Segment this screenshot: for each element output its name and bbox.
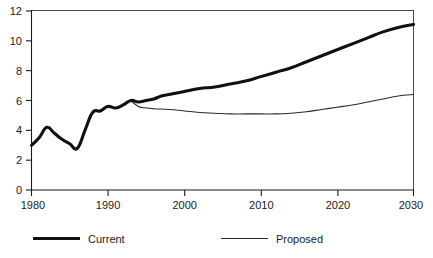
axes (31, 10, 414, 191)
series-line-current (32, 24, 414, 149)
y-tick-label-0: 0 (16, 184, 22, 196)
x-tick-label-2010: 2010 (249, 199, 273, 211)
y-tick-label-2: 2 (16, 154, 22, 166)
y-tick-label-6: 6 (16, 95, 22, 107)
line-chart: 0 2 4 6 8 10 12 1980 1990 2000 2010 2020… (0, 0, 433, 258)
y-axis-ticks: 0 2 4 6 8 10 12 (10, 5, 32, 196)
y-tick-label-12: 12 (10, 5, 22, 17)
legend-label-proposed: Proposed (276, 233, 323, 245)
x-tick-label-2000: 2000 (172, 199, 196, 211)
y-tick-label-4: 4 (16, 124, 22, 136)
series-line-proposed (131, 95, 414, 114)
chart-figure: 0 2 4 6 8 10 12 1980 1990 2000 2010 2020… (0, 0, 433, 258)
x-axis-ticks: 1980 1990 2000 2010 2020 2030 (21, 190, 423, 211)
chart-legend: Current Proposed (33, 233, 323, 245)
x-tick-label-2020: 2020 (326, 199, 350, 211)
x-tick-label-1980: 1980 (21, 199, 45, 211)
x-tick-label-1990: 1990 (96, 199, 120, 211)
y-tick-label-10: 10 (10, 35, 22, 47)
legend-label-current: Current (88, 233, 125, 245)
y-tick-label-8: 8 (16, 65, 22, 77)
x-tick-label-2030: 2030 (399, 199, 423, 211)
plot-frame (31, 11, 414, 191)
